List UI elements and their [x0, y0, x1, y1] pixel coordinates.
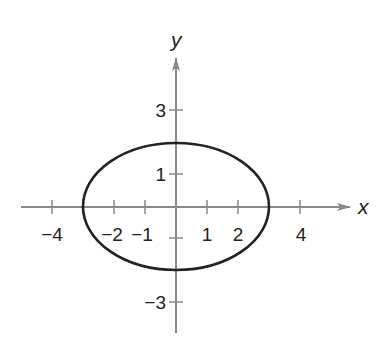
- ellipse-graph: −4 −2 −1 1 2 4 3 1 −3 x y: [0, 0, 384, 342]
- x-tick-label: −1: [131, 224, 153, 245]
- x-axis-label: x: [357, 195, 370, 218]
- y-tick-label: 3: [155, 100, 166, 121]
- x-tick-label: −2: [101, 224, 123, 245]
- x-tick-label: 2: [233, 224, 244, 245]
- y-tick-label: −3: [144, 292, 166, 313]
- x-tick-label: 4: [296, 224, 307, 245]
- y-tick-label: 1: [155, 164, 166, 185]
- x-tick-label: 1: [202, 224, 213, 245]
- x-tick-label: −4: [41, 224, 63, 245]
- y-axis-label: y: [169, 28, 183, 51]
